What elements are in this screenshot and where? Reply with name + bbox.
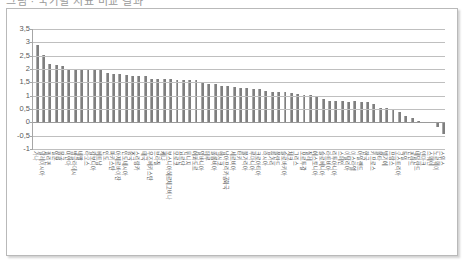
gridline-neg0-5: [33, 136, 445, 137]
bar[interactable]: [176, 80, 179, 123]
bar[interactable]: [144, 76, 147, 122]
gridline-2neg5: [33, 56, 445, 57]
gridline-0neg5: [33, 109, 445, 110]
category-label: 세르비아: [229, 151, 234, 171]
category-label: 그리스: [293, 151, 298, 166]
bar[interactable]: [284, 92, 287, 122]
bar[interactable]: [156, 79, 159, 122]
category-label: 노르웨이: [433, 151, 438, 171]
category-label: 일본: [51, 151, 56, 161]
category-label: 네덜란드: [414, 151, 419, 171]
category-axis-labels: 가나말레이시아필리핀일본몽골미얀마방글라데시네팔라오스캄보디아베트남인도파키스탄…: [33, 151, 445, 251]
bar[interactable]: [112, 74, 115, 123]
bar[interactable]: [201, 82, 204, 122]
bar[interactable]: [252, 89, 255, 123]
category-label: 불가리아: [242, 151, 247, 171]
bar[interactable]: [347, 102, 350, 123]
bar[interactable]: [106, 73, 109, 123]
gridline-1neg5: [33, 82, 445, 83]
cropped-title-text: 그림 · 국가별 지표 비교 결과: [6, 0, 143, 7]
category-label: 오스트리아: [395, 151, 400, 176]
y-axis-tick-mark: [30, 42, 33, 43]
bar[interactable]: [207, 84, 210, 122]
bar[interactable]: [42, 55, 45, 122]
bar[interactable]: [328, 101, 331, 122]
y-axis-tick-label: -1: [23, 145, 30, 153]
category-label: 핀란드: [407, 151, 412, 166]
category-label: 이탈리아: [344, 151, 349, 171]
bar[interactable]: [245, 88, 248, 122]
bar[interactable]: [334, 101, 337, 122]
bar[interactable]: [226, 86, 229, 122]
category-label: 이스라엘: [350, 151, 355, 171]
gridline-0: [33, 122, 445, 123]
category-label: 아제르바이잔: [115, 151, 120, 180]
bar[interactable]: [55, 65, 58, 122]
category-label: 네팔: [77, 151, 82, 161]
category-label: 폴란드: [274, 151, 279, 166]
category-label: 칠레: [306, 151, 311, 161]
bar[interactable]: [214, 84, 217, 122]
bar[interactable]: [442, 122, 445, 133]
category-label: 말레이시아: [39, 151, 44, 176]
category-label: 브라질: [153, 151, 158, 166]
category-label: 알바니아: [198, 151, 203, 171]
bar[interactable]: [258, 89, 261, 122]
category-label: 터키: [236, 151, 241, 161]
bar[interactable]: [239, 88, 242, 123]
category-label: 스페인: [337, 151, 342, 166]
category-label: 페루: [204, 151, 209, 161]
category-label: 라트비아: [325, 151, 330, 171]
category-label: 멕시코: [217, 151, 222, 166]
bar[interactable]: [398, 112, 401, 122]
bar[interactable]: [322, 99, 325, 122]
bar[interactable]: [48, 64, 51, 123]
bar[interactable]: [372, 104, 375, 122]
bar[interactable]: [385, 108, 388, 122]
bar[interactable]: [163, 79, 166, 122]
bar[interactable]: [195, 80, 198, 122]
cropped-title-sliver: 그림 · 국가별 지표 비교 결과: [0, 0, 466, 7]
bar[interactable]: [182, 80, 185, 123]
category-label: 벨기에: [382, 151, 387, 166]
bar[interactable]: [277, 92, 280, 122]
bar-series: [34, 29, 445, 149]
bar[interactable]: [220, 86, 223, 123]
y-axis-tick-mark: [30, 96, 33, 97]
category-label: 헝가리: [267, 151, 272, 166]
bar[interactable]: [150, 79, 153, 122]
bar[interactable]: [233, 87, 236, 122]
category-label: 에스토니아: [312, 151, 317, 176]
category-label: 몰타: [375, 151, 380, 161]
category-label: 캄보디아: [90, 151, 95, 171]
bar[interactable]: [188, 80, 191, 122]
category-label: 태국: [140, 151, 145, 161]
category-label: 우즈베키스탄: [147, 151, 152, 180]
bar[interactable]: [360, 102, 363, 123]
category-label: 아일랜드: [356, 151, 361, 171]
bar[interactable]: [290, 93, 293, 122]
y-axis-tick-label: -0,5: [17, 132, 30, 140]
y-axis-tick-mark: [30, 56, 33, 57]
chart-plot-container: 3,532,521,510,50-0,5-1 가나말레이시아필리핀일본몽골미얀마…: [7, 9, 457, 255]
bar[interactable]: [353, 101, 356, 122]
category-label: 스웨덴: [426, 151, 431, 166]
y-axis-tick-mark: [30, 82, 33, 83]
gridline-3: [33, 42, 445, 43]
category-label: 베트남: [96, 151, 101, 166]
category-label: 슬로베니아: [318, 151, 323, 176]
category-label: 루마니아: [248, 151, 253, 171]
category-label: 리투아니아: [331, 151, 336, 176]
bar[interactable]: [169, 79, 172, 122]
chart-object-frame[interactable]: 3,532,521,510,50-0,5-1 가나말레이시아필리핀일본몽골미얀마…: [6, 8, 458, 256]
bar[interactable]: [341, 101, 344, 122]
bar[interactable]: [366, 102, 369, 123]
category-label: 러시아: [261, 151, 266, 166]
bar[interactable]: [392, 110, 395, 122]
bar[interactable]: [61, 66, 64, 122]
category-label: 체코: [287, 151, 292, 161]
category-label: 모로코: [172, 151, 177, 166]
category-label: 튀니지: [185, 151, 190, 166]
gridline-3neg5: [33, 29, 445, 30]
category-label: 방글라데시: [70, 151, 75, 176]
